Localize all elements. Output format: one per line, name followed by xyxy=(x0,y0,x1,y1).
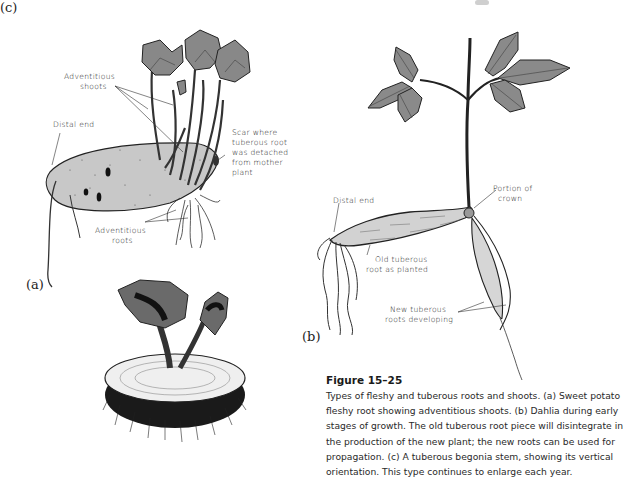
top-artifact xyxy=(475,0,489,5)
figure-number: Figure 15–25 xyxy=(326,374,402,386)
panel-letter-c: (c) xyxy=(0,0,17,15)
figure-caption: Types of fleshy and tuberous roots and s… xyxy=(326,388,638,479)
